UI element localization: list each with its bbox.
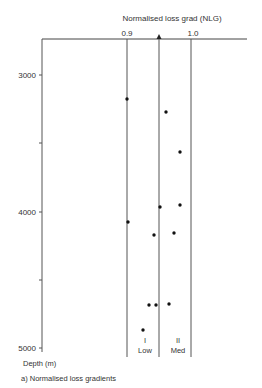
x-axis-title: Normalised loss grad (NLG)	[122, 14, 221, 23]
nlg-depth-chart: Normalised loss grad (NLG) 0.9 1.0 3000 …	[0, 0, 262, 388]
y-tick-5000: 5000	[18, 344, 36, 353]
zone-1-name: Low	[138, 346, 152, 355]
x-tick-1.0: 1.0	[187, 29, 199, 38]
data-points	[125, 97, 181, 331]
zone-1-numeral: I	[144, 336, 146, 345]
data-point	[164, 110, 167, 113]
zone-2-name: Med	[171, 346, 186, 355]
figure-caption: a) Normalised loss gradients	[21, 374, 116, 383]
data-point	[152, 233, 155, 236]
data-point	[172, 231, 175, 234]
data-point	[154, 303, 157, 306]
zone-2-numeral: II	[176, 336, 180, 345]
y-tick-4000: 4000	[18, 208, 36, 217]
x-tick-0.9: 0.9	[121, 29, 133, 38]
data-point	[147, 303, 150, 306]
data-point	[125, 97, 128, 100]
data-point	[126, 220, 129, 223]
data-point	[178, 203, 181, 206]
data-point	[167, 302, 170, 305]
data-point	[178, 150, 181, 153]
arrow-up-icon	[157, 34, 162, 39]
data-point	[141, 328, 144, 331]
y-axis-title: Depth (m)	[23, 359, 57, 368]
y-tick-3000: 3000	[18, 71, 36, 80]
data-point	[158, 205, 161, 208]
